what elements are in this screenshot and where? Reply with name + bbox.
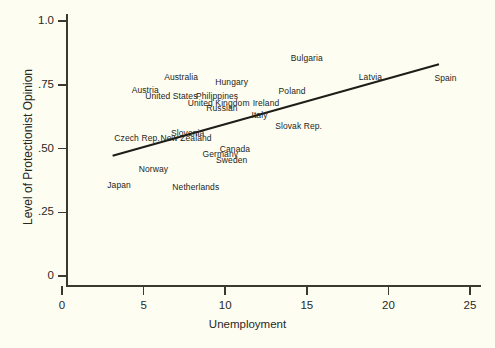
y-tick-label: .25 bbox=[38, 205, 54, 217]
trend-line bbox=[0, 0, 495, 348]
data-point-label: Netherlands bbox=[172, 182, 219, 192]
x-tick-label: 5 bbox=[140, 299, 146, 311]
data-point-label: Slovak Rep. bbox=[275, 121, 322, 131]
x-tick-mark bbox=[306, 286, 308, 295]
data-point-label: Poland bbox=[279, 86, 306, 96]
x-tick-mark bbox=[388, 286, 390, 295]
data-point-label: Russian bbox=[206, 103, 237, 113]
data-point-label: Czech Rep. bbox=[114, 133, 159, 143]
x-tick-mark bbox=[469, 286, 471, 295]
data-point-label: Italy bbox=[251, 110, 267, 120]
y-axis-title: Level of Protectionist Opinion bbox=[21, 32, 35, 262]
data-point-label: Bulgaria bbox=[291, 53, 323, 63]
data-point-label: Japan bbox=[107, 180, 131, 190]
data-point-label: Ireland bbox=[253, 98, 280, 108]
data-point-label: Sweden bbox=[216, 155, 247, 165]
y-tick-mark bbox=[58, 148, 67, 150]
x-tick-label: 20 bbox=[382, 299, 395, 311]
x-tick-label: 25 bbox=[464, 299, 477, 311]
x-tick-label: 15 bbox=[300, 299, 313, 311]
y-tick-label: .50 bbox=[38, 142, 54, 154]
data-point-label: Norway bbox=[139, 164, 168, 174]
y-tick-mark bbox=[58, 84, 67, 86]
y-tick-label: 0 bbox=[48, 269, 54, 281]
x-tick-mark bbox=[143, 286, 145, 295]
y-tick-mark bbox=[58, 212, 67, 214]
x-tick-label: 0 bbox=[59, 299, 65, 311]
x-tick-mark bbox=[61, 286, 63, 295]
x-axis-line bbox=[66, 285, 481, 287]
scatter-plot-figure: 0.25.50.751.0 0510152025 Level of Protec… bbox=[0, 0, 495, 348]
x-tick-label: 10 bbox=[219, 299, 232, 311]
data-point-label: Spain bbox=[434, 73, 456, 83]
y-axis-line bbox=[66, 14, 68, 286]
x-axis-title: Unemployment bbox=[0, 318, 495, 330]
y-tick-label: 1.0 bbox=[38, 14, 54, 26]
data-point-label: Australia bbox=[164, 72, 198, 82]
x-tick-mark bbox=[224, 286, 226, 295]
data-point-label: Hungary bbox=[215, 77, 248, 87]
data-point-label: Latvia bbox=[359, 72, 382, 82]
y-tick-label: .75 bbox=[38, 78, 54, 90]
y-tick-mark bbox=[58, 20, 67, 22]
y-tick-mark bbox=[58, 275, 67, 277]
data-point-label: New Zealand bbox=[160, 133, 211, 143]
